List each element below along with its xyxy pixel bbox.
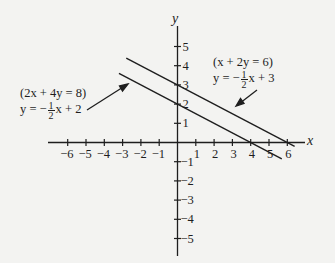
annotation-left-prefix: y = − [20,102,47,116]
y-tick-label: 4 [183,59,189,73]
y-axis-label: y [172,12,178,26]
y-tick-label: 5 [183,40,189,54]
y-tick-label: 1 [183,116,189,130]
y-tick-label: −3 [181,193,194,207]
x-tick-label: −6 [60,147,73,161]
x-tick-label: −5 [79,147,92,161]
x-tick-label: 2 [212,147,218,161]
fraction-one-half: 12 [48,101,55,120]
x-tick-label: −1 [152,147,165,161]
annotation-left-slope-intercept: y = −12x + 2 [20,101,86,120]
x-axis-label: x [307,134,313,148]
arrowhead-left-icon [120,84,129,91]
annotation-right-prefix: y = − [213,71,240,85]
x-tick-label: −4 [97,147,110,161]
x-tick-label: 5 [267,147,273,161]
y-tick-label: −5 [181,232,194,246]
x-tick-label: 6 [285,147,291,161]
fraction-one-half: 12 [241,70,248,89]
x-tick-label: 1 [194,147,200,161]
x-tick-label: −2 [133,147,146,161]
x-tick-label: 3 [230,147,236,161]
x-tick-label: 4 [249,147,255,161]
annotation-left-standard-form: (2x + 4y = 8) [20,86,86,100]
annotation-left: (2x + 4y = 8) y = −12x + 2 [20,86,86,120]
annotation-left-suffix: x + 2 [56,102,82,116]
y-tick-label: −2 [181,174,194,188]
y-tick-label: −1 [181,155,194,169]
annotation-right: (x + 2y = 6) y = −12x + 3 [213,55,274,89]
annotation-right-slope-intercept: y = −12x + 3 [213,70,274,89]
arrow-left [87,87,124,111]
annotation-right-standard-form: (x + 2y = 6) [213,55,274,69]
y-tick-label: −4 [181,212,194,226]
coordinate-plane [0,0,335,263]
annotation-right-suffix: x + 3 [249,71,275,85]
x-tick-label: −3 [115,147,128,161]
y-tick-label: 3 [183,78,189,92]
arrowhead-right-icon [236,99,244,107]
y-tick-label: 2 [183,97,189,111]
